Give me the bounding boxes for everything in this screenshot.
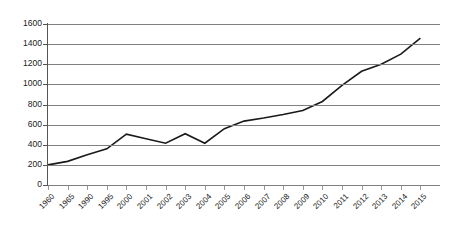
- y-axis-tick-label: 1400: [0, 39, 42, 48]
- x-axis-tick: [224, 186, 225, 190]
- y-axis-tick: [43, 125, 48, 126]
- x-axis-tick: [48, 186, 49, 190]
- y-axis-tick-label: 0: [0, 180, 42, 189]
- y-axis-tick: [43, 44, 48, 45]
- x-axis-tick: [401, 186, 402, 190]
- y-axis-tick: [43, 64, 48, 65]
- x-axis-tick: [146, 186, 147, 190]
- x-axis-tick: [420, 186, 421, 190]
- grid-line: [48, 64, 440, 65]
- x-axis-tick: [107, 186, 108, 190]
- grid-line: [48, 84, 440, 85]
- x-axis-tick: [166, 186, 167, 190]
- y-axis-tick-label: 600: [0, 120, 42, 129]
- y-axis-tick: [43, 105, 48, 106]
- x-axis-tick: [342, 186, 343, 190]
- x-axis-tick: [68, 186, 69, 190]
- y-axis-tick: [43, 24, 48, 25]
- x-axis-tick: [205, 186, 206, 190]
- grid-line: [48, 105, 440, 106]
- x-axis-tick: [126, 186, 127, 190]
- x-axis-tick: [283, 186, 284, 190]
- y-axis-tick: [43, 84, 48, 85]
- grid-line: [48, 145, 440, 146]
- x-axis-tick: [264, 186, 265, 190]
- grid-line: [48, 125, 440, 126]
- y-axis-tick-label: 1600: [0, 19, 42, 28]
- series-polyline: [48, 38, 420, 165]
- y-axis-tick: [43, 145, 48, 146]
- y-axis-tick-label: 1000: [0, 79, 42, 88]
- x-axis-tick: [87, 186, 88, 190]
- y-axis-tick-label: 1200: [0, 59, 42, 68]
- y-axis-tick: [43, 165, 48, 166]
- x-axis-tick: [381, 186, 382, 190]
- grid-line: [48, 165, 440, 166]
- x-axis-tick: [303, 186, 304, 190]
- plot-area: [48, 24, 440, 185]
- x-axis-tick: [362, 186, 363, 190]
- y-axis-tick-label: 800: [0, 100, 42, 109]
- x-axis-tick: [185, 186, 186, 190]
- y-axis-tick-label: 400: [0, 140, 42, 149]
- y-axis-tick-label: 200: [0, 160, 42, 169]
- line-chart: 02004006008001000120014001600 1960196519…: [0, 0, 458, 228]
- x-axis-tick: [244, 186, 245, 190]
- grid-line: [48, 44, 440, 45]
- x-axis-tick: [322, 186, 323, 190]
- grid-line: [48, 24, 440, 25]
